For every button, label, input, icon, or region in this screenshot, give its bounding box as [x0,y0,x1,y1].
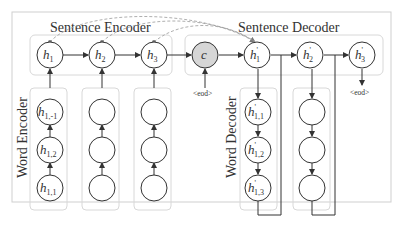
node-empty [141,137,167,163]
node-empty [89,175,115,201]
node-empty [89,99,115,125]
hierarchical-autoencoder-diagram: Sentence Encoder Sentence Decoder Word E… [0,0,401,231]
eod-output-label: <eod> [350,88,369,97]
node-empty [141,99,167,125]
svg-text:c: c [201,47,207,62]
node-empty [141,175,167,201]
node-empty [299,99,325,125]
sentence-decoder-label: Sentence Decoder [238,20,340,35]
sentence-encoder-label: Sentence Encoder [50,20,151,35]
word-encoder-label: Word Encoder [15,97,30,178]
node-empty [299,137,325,163]
word-decoder-label: Word Decoder [224,96,239,178]
node-empty [299,175,325,201]
node-empty [89,137,115,163]
eod-input-label: <eod> [193,89,212,98]
outer-frame [12,12,391,202]
